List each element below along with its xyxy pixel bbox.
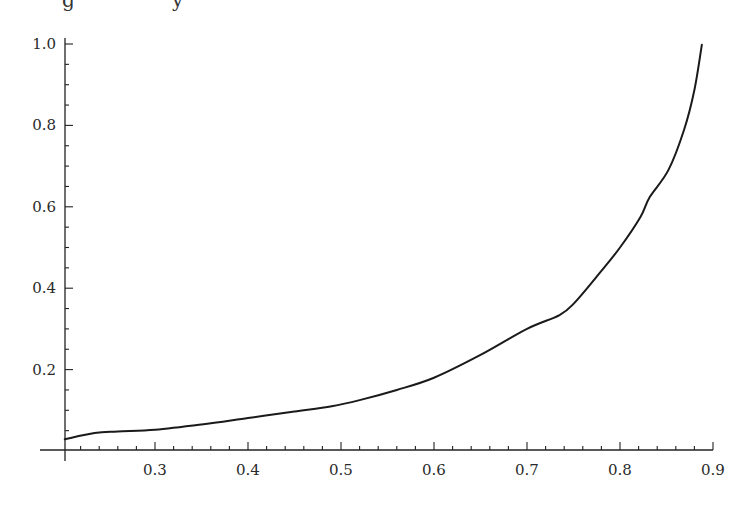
y-tick-label: 1.0 — [32, 35, 56, 53]
x-tick-label: 0.8 — [608, 461, 632, 479]
x-tick-label: 0.3 — [143, 461, 167, 479]
x-tick-label: 0.4 — [236, 461, 260, 479]
y-tick-label: 0.6 — [32, 198, 56, 216]
tick-labels: 0.30.40.50.60.70.80.90.20.40.60.81.0 — [32, 35, 725, 479]
line-chart: 0.30.40.50.60.70.80.90.20.40.60.81.0 — [0, 0, 746, 505]
x-tick-label: 0.7 — [515, 461, 539, 479]
x-tick-label: 0.9 — [701, 461, 725, 479]
y-tick-label: 0.4 — [32, 279, 56, 297]
y-tick-label: 0.8 — [32, 116, 56, 134]
data-line — [65, 45, 702, 439]
ticks — [65, 44, 713, 450]
axes — [40, 38, 713, 461]
x-tick-label: 0.5 — [329, 461, 353, 479]
y-tick-label: 0.2 — [32, 361, 56, 379]
x-tick-label: 0.6 — [422, 461, 446, 479]
